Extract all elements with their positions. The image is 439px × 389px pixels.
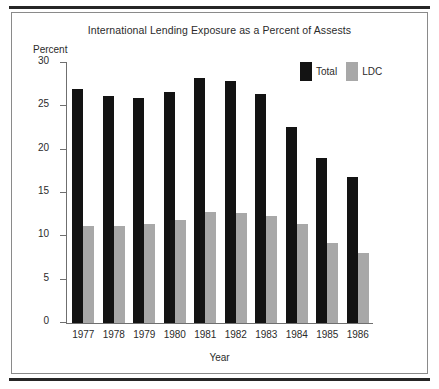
bar-ldc-1983 <box>266 216 277 323</box>
bar-total-1982 <box>225 81 236 323</box>
bar-total-1977 <box>72 89 83 323</box>
x-tick-label-1983: 1983 <box>251 329 282 340</box>
x-tick-label-1981: 1981 <box>190 329 221 340</box>
bar-total-1978 <box>103 96 114 323</box>
y-tick: 0 <box>60 322 67 323</box>
y-tick-label: 5 <box>43 272 49 283</box>
bar-total-1979 <box>133 98 144 323</box>
bar-total-1980 <box>164 92 175 323</box>
y-axis-line <box>66 63 67 324</box>
bar-group-1983 <box>255 63 277 323</box>
bar-ldc-1986 <box>358 253 369 323</box>
bar-ldc-1979 <box>144 224 155 323</box>
x-tick-label-1985: 1985 <box>312 329 343 340</box>
x-axis-title: Year <box>0 352 439 363</box>
y-axis-title: Percent <box>33 44 67 55</box>
y-tick-label: 15 <box>38 185 49 196</box>
bar-group-1986 <box>347 63 369 323</box>
y-tick: 20 <box>60 149 67 150</box>
x-tick-label-1986: 1986 <box>343 329 374 340</box>
top-rule <box>9 6 430 9</box>
bar-ldc-1981 <box>205 212 216 323</box>
y-tick-label: 10 <box>38 228 49 239</box>
bar-ldc-1982 <box>236 213 247 323</box>
y-tick: 30 <box>60 62 67 63</box>
x-tick-label-1982: 1982 <box>221 329 252 340</box>
x-tick-label-1979: 1979 <box>129 329 160 340</box>
bar-group-1981 <box>194 63 216 323</box>
bar-ldc-1978 <box>114 226 125 323</box>
plot-area: 051015202530 197719781979198019811982198… <box>68 63 373 323</box>
x-tick-label-1984: 1984 <box>282 329 313 340</box>
figure-page: International Lending Exposure as a Perc… <box>0 0 439 389</box>
bar-group-1977 <box>72 63 94 323</box>
y-tick-label: 30 <box>38 55 49 66</box>
x-tick-label-1980: 1980 <box>160 329 191 340</box>
y-tick: 15 <box>60 192 67 193</box>
bar-group-1980 <box>164 63 186 323</box>
y-tick-label: 0 <box>43 315 49 326</box>
bottom-rule <box>9 378 430 381</box>
y-tick: 10 <box>60 235 67 236</box>
bar-group-1979 <box>133 63 155 323</box>
x-tick-label-1977: 1977 <box>68 329 99 340</box>
bar-total-1986 <box>347 177 358 323</box>
bar-total-1981 <box>194 78 205 323</box>
bar-ldc-1977 <box>83 226 94 323</box>
bar-total-1984 <box>286 127 297 323</box>
bar-group-1982 <box>225 63 247 323</box>
y-tick: 25 <box>60 105 67 106</box>
bar-ldc-1984 <box>297 224 308 323</box>
bar-group-1985 <box>316 63 338 323</box>
y-tick-label: 20 <box>38 142 49 153</box>
x-axis-line <box>66 323 373 324</box>
bar-ldc-1985 <box>327 243 338 323</box>
bar-group-1984 <box>286 63 308 323</box>
chart-title: International Lending Exposure as a Perc… <box>0 24 439 36</box>
bar-ldc-1980 <box>175 220 186 323</box>
bar-total-1985 <box>316 158 327 323</box>
bar-total-1983 <box>255 94 266 323</box>
bar-group-1978 <box>103 63 125 323</box>
y-tick-label: 25 <box>38 98 49 109</box>
x-tick-label-1978: 1978 <box>99 329 130 340</box>
y-tick: 5 <box>60 279 67 280</box>
